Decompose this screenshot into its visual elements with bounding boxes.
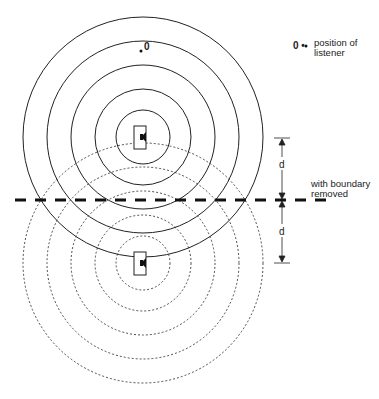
listener-label: 0 [144, 41, 150, 52]
listener-dot-icon [140, 50, 143, 53]
dimension-label-upper: d [279, 159, 285, 170]
legend-label: position of listener [314, 38, 374, 58]
legend-symbol: 0 • [293, 40, 305, 51]
real-speaker-icon [134, 126, 146, 149]
boundary-label: with boundary removed [311, 179, 379, 199]
image-speaker-icon [134, 252, 146, 275]
diagram-canvas [0, 0, 379, 399]
dimension-label-lower: d [279, 226, 285, 237]
